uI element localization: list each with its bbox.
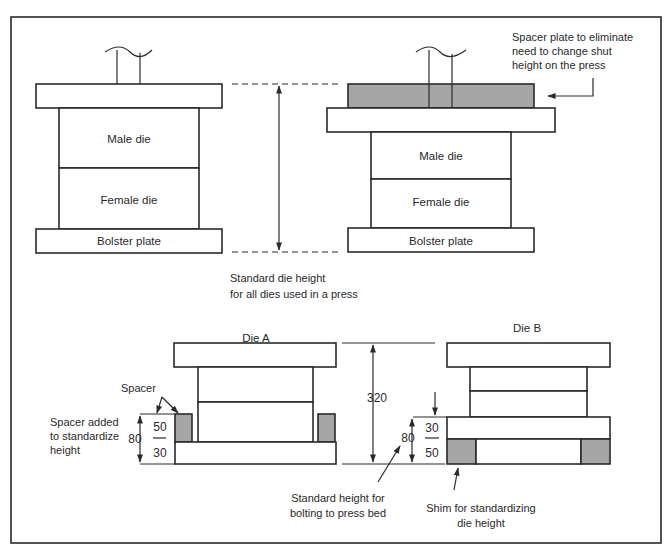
die-b (447, 343, 610, 464)
top-right-press: Male die Female die Bolster plate (327, 47, 555, 252)
male-die-label: Male die (419, 150, 462, 162)
top-plate (36, 84, 222, 108)
die-a (174, 343, 336, 464)
bolting-note-line1: Standard height for (291, 492, 385, 504)
spacer-label: Spacer (121, 382, 156, 394)
male-die-label: Male die (107, 133, 150, 145)
die-a-top-plate (174, 343, 336, 367)
die-b-title: Die B (513, 322, 541, 334)
top-left-press: Male die Female die Bolster plate (36, 47, 222, 253)
shim-note-line1: Shim for standardizing (426, 502, 535, 514)
ram-break-icon (105, 47, 152, 57)
die-a-note-line1: Spacer added (50, 416, 119, 428)
spacer-plate (348, 84, 534, 108)
die-b-top-plate (447, 343, 610, 367)
spacer-note-line1: Spacer plate to eliminate (512, 31, 633, 43)
top-plate (327, 108, 555, 132)
female-die-label: Female die (413, 196, 470, 208)
shim-note-arrow (454, 468, 458, 490)
die-b-base-plate (447, 417, 610, 439)
die-b-total: 80 (401, 431, 415, 445)
bolting-note-line2: bolting to press bed (290, 507, 386, 519)
die-a-spacer-right (318, 414, 335, 442)
die-b-shim-right (581, 439, 610, 464)
die-b-lower-block (470, 391, 587, 417)
die-b-lower: 50 (425, 446, 439, 460)
standard-height-note-line1: Standard die height (230, 272, 325, 284)
bolster-plate-label: Bolster plate (409, 235, 473, 247)
die-a-total: 80 (128, 432, 142, 446)
die-a-upper-block (198, 367, 313, 402)
die-b-shim-left (447, 439, 476, 464)
bolster-plate-label: Bolster plate (97, 235, 161, 247)
die-b-upper: 30 (425, 421, 439, 435)
spacer-note-line2: need to change shut (512, 45, 612, 57)
female-die-label: Female die (101, 194, 158, 206)
die-a-lower-block (198, 402, 313, 442)
standard-height-note-line2: for all dies used in a press (230, 288, 358, 300)
die-a-base-plate (175, 442, 336, 464)
die-b-upper-block (470, 367, 587, 391)
ram-break-icon (416, 47, 466, 57)
die-a-note-line2: to standardize (50, 430, 119, 442)
spacer-note-arrow (548, 78, 593, 96)
standard-height-value: 320 (367, 391, 387, 405)
die-a-upper: 50 (153, 420, 167, 434)
die-a-note-line3: height (50, 444, 80, 456)
die-a-lower: 30 (153, 446, 167, 460)
spacer-arrow-2 (162, 397, 178, 413)
die-a-spacer-left (175, 414, 192, 442)
die-b-gap (476, 439, 581, 464)
shim-note-line2: die height (457, 517, 505, 529)
die-height-diagram: Male die Female die Bolster plate Standa… (0, 0, 672, 553)
spacer-arrow-1 (157, 397, 162, 413)
spacer-note-line3: height on the press (512, 59, 606, 71)
